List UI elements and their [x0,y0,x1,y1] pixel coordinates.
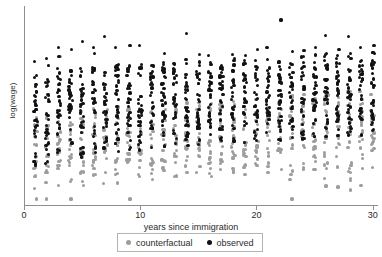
data-point-observed [349,52,352,55]
data-point-observed [219,137,222,140]
data-point-observed [69,94,72,97]
data-point-observed [256,110,259,113]
data-point-counterfactual [336,116,339,119]
data-point-observed [302,115,305,118]
data-point-counterfactual [324,126,327,129]
data-point-counterfactual [255,113,258,116]
data-point-counterfactual [209,167,212,170]
data-point-observed [103,141,106,144]
data-point-counterfactual [82,123,85,126]
data-point-counterfactual [127,107,130,110]
data-point-observed [80,121,83,124]
data-point-observed [127,84,130,87]
data-point-counterfactual [324,137,327,140]
data-point-counterfactual [325,167,328,170]
data-point-observed [138,116,141,119]
data-point-counterfactual [125,132,128,135]
data-point-counterfactual [337,110,340,113]
data-point-counterfactual [300,129,303,132]
data-point-counterfactual [208,139,211,142]
data-point-observed [186,132,189,135]
data-point-counterfactual [69,121,72,124]
data-point-observed [280,81,283,84]
data-point-observed [256,48,259,51]
data-point-counterfactual [233,154,236,157]
data-point-observed [337,114,340,117]
data-point-counterfactual [347,110,350,113]
data-point-observed [175,103,178,106]
data-point-counterfactual [82,151,85,154]
data-point-observed [232,81,235,84]
data-point-counterfactual [81,156,84,159]
data-point-observed [243,120,246,123]
data-point-counterfactual [302,121,305,124]
data-point-counterfactual [245,155,248,158]
data-point-observed [279,81,282,84]
data-point-observed [152,64,155,67]
data-point-observed [268,114,271,117]
data-point-observed [324,64,327,67]
data-point-counterfactual [338,125,341,128]
data-point-observed [289,62,292,65]
data-point-counterfactual [186,155,189,158]
data-point-counterfactual [232,169,235,172]
data-point-counterfactual [265,119,268,122]
data-point-counterfactual [198,132,201,135]
data-point-observed [231,70,234,73]
data-point-counterfactual [346,146,349,149]
data-point-counterfactual [198,165,201,168]
data-point-observed [360,118,363,121]
data-point-counterfactual [349,171,352,174]
data-point-counterfactual [92,126,95,129]
data-point-observed [326,63,329,66]
data-point-observed [312,109,315,112]
data-point-observed [94,101,97,104]
data-point-observed [279,68,282,71]
data-point-observed [57,55,60,58]
data-point-observed [279,138,282,141]
data-point-counterfactual [45,164,48,167]
data-point-observed [302,49,305,52]
data-point-observed [280,95,283,98]
data-point-counterfactual [162,128,165,131]
data-point-observed [209,122,212,125]
data-point-observed [58,149,61,152]
data-point-observed [93,88,96,91]
data-point-counterfactual [47,124,50,127]
data-point-observed [348,70,351,73]
data-point-observed [372,104,375,107]
data-point-observed [117,128,120,131]
data-point-observed [371,66,374,69]
data-point-observed [289,119,292,122]
data-point-observed [80,93,83,96]
data-point-observed [58,126,61,129]
data-point-counterfactual [220,152,223,155]
data-point-counterfactual [33,143,36,146]
data-point-counterfactual [174,110,177,113]
data-point-observed [195,73,198,76]
y-axis-label: log(wage) [8,66,17,136]
data-point-counterfactual [58,113,61,116]
data-point-counterfactual [79,117,82,120]
data-point-observed [140,110,143,113]
data-point-observed [35,108,38,111]
data-point-counterfactual [69,144,72,147]
data-point-observed [288,66,291,69]
data-point-counterfactual [254,155,257,158]
data-point-counterfactual [266,123,269,126]
data-point-observed [184,124,187,127]
data-point-counterfactual [300,111,303,114]
data-point-observed [116,109,119,112]
data-point-counterfactual [290,116,293,119]
data-point-counterfactual [47,142,50,145]
data-point-observed [139,133,142,136]
data-point-counterfactual [184,119,187,122]
data-point-counterfactual [336,125,339,128]
data-point-observed [185,62,188,65]
data-point-counterfactual [33,129,36,132]
data-point-observed [254,76,257,79]
data-point-observed [267,72,270,75]
data-point-counterfactual [151,130,154,133]
data-point-observed [163,114,166,117]
data-point-observed [256,84,259,87]
